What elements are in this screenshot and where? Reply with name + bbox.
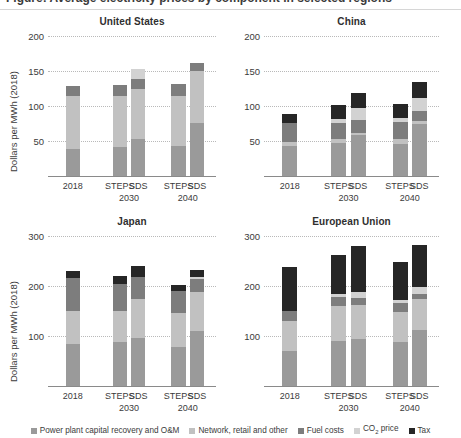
bar-segment	[282, 114, 297, 122]
bar-segment	[131, 89, 145, 139]
gridline	[48, 236, 216, 237]
bar-segment	[113, 311, 127, 342]
bar-segment	[113, 276, 127, 284]
bar-segment	[131, 69, 145, 80]
stacked-bar	[66, 271, 80, 386]
panel-united-states: United States501001502002018STEPSSDSSTEP…	[0, 16, 226, 218]
panel-china: China501001502002018STEPSSDSSTEPSSDS2030…	[232, 16, 449, 218]
plot-area	[48, 236, 216, 386]
bar-segment	[171, 146, 185, 176]
legend-item-power-plant[interactable]: Power plant capital recovery and O&M	[31, 427, 180, 435]
bar-segment	[393, 118, 408, 122]
y-axis-tick: 200	[230, 31, 260, 42]
x-axis-tick: SDS	[118, 391, 158, 401]
bar-segment	[351, 298, 366, 305]
legend-label: Network, retail and other	[198, 427, 287, 435]
plot-area	[48, 36, 216, 176]
bar-segment	[351, 305, 366, 339]
x-axis-tick: 2018	[269, 181, 311, 191]
x-axis-tick: SDS	[337, 391, 379, 401]
stacked-bar	[351, 93, 366, 176]
bar-segment	[331, 139, 346, 143]
bar-segment	[171, 285, 185, 291]
bar-segment	[131, 79, 145, 88]
y-axis-tick: 200	[230, 281, 260, 292]
bar-segment	[66, 271, 80, 278]
x-axis-tick: 2018	[53, 391, 93, 401]
bar-segment	[113, 342, 127, 386]
stacked-bar	[393, 262, 408, 386]
y-axis-tick: 200	[14, 31, 44, 42]
bar-segment	[190, 270, 204, 277]
legend-item-fuel[interactable]: Fuel costs	[298, 427, 344, 435]
x-axis-tick: SDS	[177, 391, 217, 401]
bar-segment	[351, 246, 366, 292]
stacked-bar	[190, 63, 204, 176]
legend-label: Power plant capital recovery and O&M	[40, 427, 180, 435]
bar-segment	[412, 124, 427, 177]
x-axis-tick: SDS	[398, 181, 440, 191]
panel-title: China	[264, 16, 439, 27]
x-axis-group-label: 2030	[107, 193, 151, 203]
stacked-bar	[282, 114, 297, 176]
bar-segment	[66, 311, 80, 344]
stacked-bar	[190, 270, 204, 387]
y-axis-tick: 300	[14, 231, 44, 242]
bar-segment	[351, 292, 366, 298]
bar-segment	[190, 71, 204, 123]
panel-title: European Union	[264, 216, 439, 227]
bar-segment	[331, 255, 346, 294]
legend-item-tax[interactable]: Tax	[409, 427, 431, 435]
bar-segment	[66, 86, 80, 95]
bar-segment	[171, 291, 185, 313]
bar-segment	[282, 123, 297, 143]
x-axis-tick: SDS	[398, 391, 440, 401]
bar-segment	[113, 85, 127, 96]
chart-legend: Power plant capital recovery and O&MNetw…	[0, 425, 461, 436]
bar-segment	[282, 267, 297, 311]
legend-swatch-icon	[189, 428, 195, 434]
legend-item-network[interactable]: Network, retail and other	[189, 427, 287, 435]
bar-segment	[331, 297, 346, 306]
x-axis-line	[264, 176, 439, 177]
x-axis-tick: SDS	[118, 181, 158, 191]
bar-segment	[190, 292, 204, 331]
legend-swatch-icon	[409, 428, 415, 434]
bar-segment	[113, 147, 127, 176]
stacked-bar	[171, 285, 185, 386]
bar-segment	[131, 277, 145, 299]
bar-segment	[131, 139, 145, 176]
bar-segment	[393, 300, 408, 303]
bar-segment	[351, 135, 366, 176]
bar-segment	[393, 312, 408, 342]
bar-segment	[282, 321, 297, 351]
legend-swatch-icon	[31, 428, 37, 434]
bar-segment	[171, 84, 185, 95]
x-axis-tick: SDS	[337, 181, 379, 191]
bar-segment	[351, 93, 366, 108]
bar-segment	[331, 123, 346, 139]
gridline	[264, 71, 439, 72]
bar-segment	[412, 111, 427, 122]
bar-segment	[351, 133, 366, 136]
bar-segment	[66, 278, 80, 311]
bar-segment	[393, 139, 408, 144]
x-axis-tick: SDS	[177, 181, 217, 191]
x-axis-group-label: 2040	[166, 403, 210, 413]
y-axis-tick: 100	[230, 331, 260, 342]
y-axis-tick: 300	[230, 231, 260, 242]
bar-segment	[190, 331, 204, 386]
bar-segment	[351, 339, 366, 387]
bar-segment	[393, 104, 408, 118]
legend-item-co2[interactable]: CO2 price	[354, 425, 399, 436]
y-axis-tick: 150	[230, 66, 260, 77]
bar-segment	[331, 143, 346, 176]
cut-off-heading-text: Figure: Average electricity prices by co…	[6, 0, 392, 5]
legend-swatch-icon	[354, 428, 360, 434]
bar-segment	[282, 142, 297, 146]
stacked-bar	[171, 84, 185, 176]
legend-label: CO2 price	[363, 425, 399, 436]
bar-segment	[393, 303, 408, 312]
bar-segment	[131, 299, 145, 338]
stacked-bar	[351, 246, 366, 387]
